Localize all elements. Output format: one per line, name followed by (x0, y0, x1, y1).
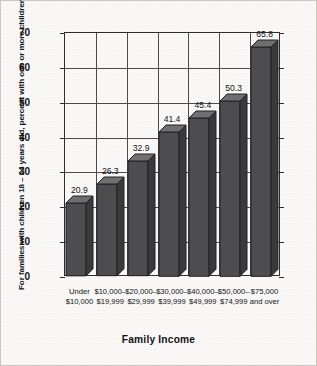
bar-value-label: 50.3 (214, 83, 254, 93)
y-tick-mark (60, 242, 65, 243)
bar-side-face (86, 196, 93, 276)
bar (97, 184, 117, 276)
y-tick-label: 50 (0, 96, 30, 107)
bar-front-face (159, 132, 179, 276)
bar (251, 47, 271, 276)
bar-front-face (66, 203, 86, 276)
bar-side-face (148, 154, 155, 276)
bar-value-label: 41.4 (152, 114, 192, 124)
bar-value-label: 65.8 (245, 29, 285, 39)
bar (66, 203, 86, 276)
bar-side-face (240, 94, 247, 276)
chart-figure: For families with children 18 – 24 years… (0, 0, 317, 366)
y-tick-label: 60 (0, 61, 30, 72)
bar-front-face (128, 161, 148, 276)
y-gridline (65, 68, 279, 69)
bar (128, 161, 148, 276)
y-tick-mark (60, 33, 65, 34)
bar-value-label: 26.3 (90, 166, 130, 176)
bar-front-face (97, 184, 117, 276)
y-tick-mark (60, 103, 65, 104)
bar-front-face (189, 118, 209, 276)
bar-value-label: 32.9 (121, 143, 161, 153)
bar-value-label: 20.9 (59, 185, 99, 195)
y-tick-mark (60, 277, 65, 278)
bar-side-face (271, 40, 278, 276)
y-tick-label: 10 (0, 236, 30, 247)
y-tick-mark (60, 207, 65, 208)
y-tick-mark (60, 172, 65, 173)
bar (220, 101, 240, 276)
y-tick-label: 20 (0, 201, 30, 212)
bar-3d-shape (128, 154, 157, 278)
bar-3d-shape (97, 177, 126, 278)
bar-side-face (209, 111, 216, 276)
bar-3d-shape (159, 125, 188, 278)
y-tick-mark (60, 138, 65, 139)
bar-3d-shape (189, 111, 218, 278)
y-tick-label: 0 (0, 271, 30, 282)
y-tick-label: 30 (0, 166, 30, 177)
x-category-label: $75,000 and over (245, 287, 284, 306)
bar-front-face (251, 47, 271, 276)
bar (189, 118, 209, 276)
bar (159, 132, 179, 276)
y-tick-label: 40 (0, 131, 30, 142)
bar-value-label: 45.4 (183, 100, 223, 110)
bar-side-face (117, 177, 124, 276)
bar-3d-shape (251, 40, 280, 278)
x-axis-title: Family Income (1, 334, 316, 345)
y-tick-label: 70 (0, 27, 30, 38)
bar-side-face (179, 125, 186, 276)
bar-3d-shape (66, 196, 95, 278)
bar-3d-shape (220, 94, 249, 278)
y-tick-mark (60, 68, 65, 69)
bar-front-face (220, 101, 240, 276)
